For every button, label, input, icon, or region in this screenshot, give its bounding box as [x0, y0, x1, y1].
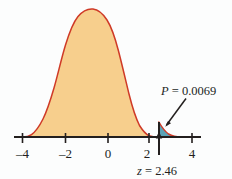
normal-distribution-chart: –4 –2 0 2 4 P = 0.0069 z = 2.46: [0, 0, 232, 179]
z-value-text: = 2.46: [142, 164, 177, 178]
z-value-label: z = 2.46: [136, 164, 177, 178]
tick-label--4: –4: [15, 146, 30, 161]
tick-label-2: 2: [144, 146, 151, 161]
p-value-leader-line: [167, 99, 187, 126]
tick-label-4: 4: [189, 146, 196, 161]
tick-label--2: –2: [58, 146, 72, 161]
p-value-arrowhead-icon: [165, 121, 171, 127]
tick-label-0: 0: [105, 146, 112, 161]
p-value-label: P = 0.0069: [160, 84, 216, 98]
p-value-text: = 0.0069: [169, 84, 217, 98]
p-value-symbol: P: [160, 84, 169, 98]
